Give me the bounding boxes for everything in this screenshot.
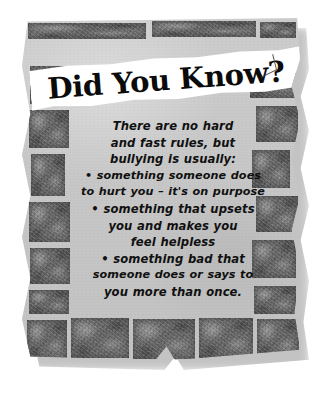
brick-left-6 — [29, 290, 69, 314]
body-line: you and makes you — [78, 218, 268, 235]
brick-bottom-1 — [27, 320, 67, 360]
body-line: feel helpless — [78, 234, 268, 251]
body-line: to hurt you – it's on purpose — [78, 184, 268, 201]
brick-top-3 — [260, 22, 296, 38]
body-line: • something that upsets — [78, 201, 268, 218]
brick-left-2 — [29, 110, 69, 148]
brick-top-1 — [28, 23, 146, 39]
body-line: There are no hard — [78, 118, 268, 135]
body-line: • something someone does — [78, 168, 268, 185]
did-you-know-poster: Did You Know? There are no hard and fast… — [22, 18, 300, 360]
poster-body-text: There are no hard and fast rules, but bu… — [78, 118, 268, 301]
body-line: bullying is usually: — [78, 151, 268, 168]
body-line: you more than once. — [78, 284, 268, 301]
brick-bottom-4 — [199, 318, 253, 358]
headline-banner: Did You Know? — [28, 44, 300, 115]
brick-left-4 — [29, 202, 70, 242]
body-line: • something bad that — [78, 251, 268, 268]
body-line: and fast rules, but — [78, 135, 268, 152]
brick-bottom-2 — [71, 318, 129, 358]
poster-stage: Did You Know? There are no hard and fast… — [0, 0, 324, 400]
body-line: someone does or says to — [78, 267, 268, 284]
brick-left-5 — [30, 248, 70, 284]
brick-top-2 — [152, 21, 256, 37]
brick-left-3 — [31, 154, 65, 196]
